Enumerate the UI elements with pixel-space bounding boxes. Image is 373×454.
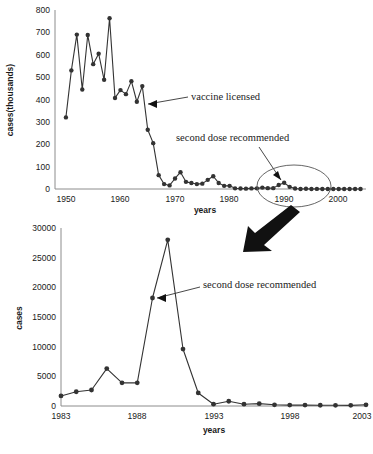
- data-point: [167, 183, 171, 187]
- bottom-chart-x-ticks: 1983 1988 1993 1998 2003: [52, 411, 372, 421]
- annotation-arrowhead: [273, 171, 281, 180]
- x-tick-label: 1950: [57, 194, 76, 204]
- data-point: [120, 380, 125, 385]
- data-point: [113, 96, 117, 100]
- data-point: [364, 402, 369, 407]
- data-point: [162, 182, 166, 186]
- y-tick-label: 500: [36, 72, 50, 82]
- y-tick-label: 20000: [32, 282, 56, 292]
- data-point: [184, 180, 188, 184]
- y-tick-label: 25000: [32, 253, 56, 263]
- data-point: [206, 178, 210, 182]
- top-chart-data-markers: [64, 16, 363, 191]
- data-point: [342, 187, 346, 191]
- data-point: [226, 399, 231, 404]
- data-point: [129, 79, 133, 83]
- data-point: [96, 51, 100, 55]
- annotation-label: vaccine licensed: [191, 91, 261, 102]
- y-tick-label: 600: [36, 50, 50, 60]
- x-tick-label: 1988: [128, 411, 147, 421]
- y-tick-label: 800: [36, 5, 50, 15]
- data-point: [86, 33, 90, 37]
- data-point: [272, 402, 277, 407]
- data-point: [89, 388, 94, 393]
- data-point: [124, 92, 128, 96]
- data-point: [347, 187, 351, 191]
- data-point: [104, 366, 109, 371]
- x-tick-label: 1983: [52, 411, 71, 421]
- data-point: [165, 237, 170, 242]
- data-point: [211, 402, 216, 407]
- data-point: [80, 87, 84, 91]
- data-point: [337, 187, 341, 191]
- bottom-chart-x-axis-title: years: [203, 425, 225, 435]
- data-point: [91, 62, 95, 66]
- data-point: [298, 187, 302, 191]
- data-point: [102, 78, 106, 82]
- data-point: [118, 88, 122, 92]
- data-point: [358, 187, 362, 191]
- data-point: [178, 170, 182, 174]
- annotation-label: second dose recommended: [176, 132, 290, 143]
- data-point: [222, 184, 226, 188]
- y-tick-label: 200: [36, 139, 50, 149]
- y-tick-label: 5000: [37, 371, 56, 381]
- data-point: [59, 394, 64, 399]
- data-point: [75, 32, 79, 36]
- data-point: [227, 184, 231, 188]
- annotation-second-dose-top: second dose recommended: [176, 132, 290, 180]
- data-point: [64, 115, 68, 119]
- data-point: [287, 403, 292, 408]
- data-point: [181, 347, 186, 352]
- y-tick-label: 30000: [32, 223, 56, 233]
- data-point: [293, 186, 297, 190]
- data-point: [146, 128, 150, 132]
- x-tick-label: 1990: [275, 194, 294, 204]
- data-point: [135, 380, 140, 385]
- top-chart-y-axis-title: cases(thousands): [5, 64, 15, 136]
- data-point: [173, 176, 177, 180]
- x-tick-label: 1998: [281, 411, 300, 421]
- data-point: [189, 181, 193, 185]
- two-panel-measles-cases-figure: 800 700 600 500 400 300 200 100 0 cases(…: [0, 0, 373, 454]
- x-tick-label: 1993: [205, 411, 224, 421]
- data-point: [196, 391, 201, 396]
- y-tick-label: 700: [36, 27, 50, 37]
- data-point: [156, 173, 160, 177]
- data-point: [74, 389, 79, 394]
- annotation-second-dose-bottom: second dose recommended: [157, 279, 317, 302]
- y-tick-label: 15000: [32, 312, 56, 322]
- data-point: [271, 186, 275, 190]
- data-point: [277, 183, 281, 187]
- x-tick-label: 1970: [166, 194, 185, 204]
- x-tick-label: 2003: [353, 411, 372, 421]
- data-point: [238, 186, 242, 190]
- bottom-chart-data-markers: [59, 237, 369, 407]
- data-point: [244, 186, 248, 190]
- data-point: [249, 186, 253, 190]
- top-chart-series-line: [66, 18, 361, 189]
- data-point: [333, 403, 338, 408]
- data-point: [69, 68, 73, 72]
- data-point: [331, 187, 335, 191]
- annotation-vaccine-licensed: vaccine licensed: [148, 91, 261, 108]
- x-tick-label: 1960: [111, 194, 130, 204]
- zoom-connector-arrow: [243, 205, 300, 252]
- data-point: [318, 403, 323, 408]
- chart-canvas: 800 700 600 500 400 300 200 100 0 cases(…: [0, 0, 373, 454]
- y-tick-label: 0: [45, 184, 50, 194]
- annotation-arrowhead: [157, 294, 166, 302]
- top-chart: 800 700 600 500 400 300 200 100 0 cases(…: [5, 5, 366, 215]
- y-tick-label: 0: [51, 401, 56, 411]
- data-point: [309, 187, 313, 191]
- y-tick-label: 300: [36, 117, 50, 127]
- bottom-chart-axes: [61, 228, 366, 406]
- data-point: [326, 187, 330, 191]
- bottom-chart-y-axis-title: cases: [14, 306, 24, 330]
- x-tick-label: 2000: [329, 194, 348, 204]
- data-point: [151, 141, 155, 145]
- data-point: [233, 186, 237, 190]
- annotation-label: second dose recommended: [203, 279, 317, 290]
- bottom-chart-series-line: [61, 240, 366, 405]
- data-point: [353, 187, 357, 191]
